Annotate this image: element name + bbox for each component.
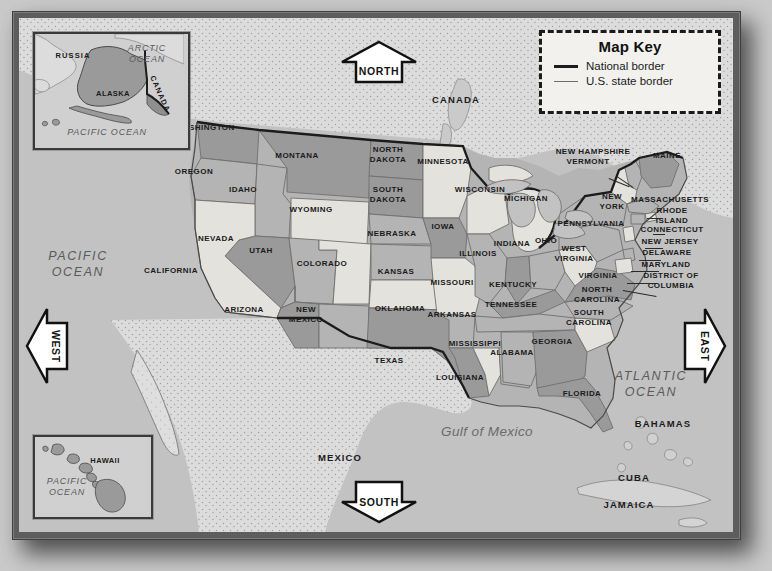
map-key: Map Key National border U.S. state borde… [539,30,721,114]
compass-label-east: EAST [683,307,733,385]
map-canvas: WASHINGTONOREGONIDAHOMONTANAWYOMINGNEVAD… [19,18,733,532]
leader-line-new-jersey [639,260,661,261]
leader-line-rhode-island [653,234,665,235]
alaska-inset-graphic [35,34,184,144]
leader-line-massachusetts [647,218,663,219]
map-screenshot: WASHINGTONOREGONIDAHOMONTANAWYOMINGNEVAD… [0,0,772,571]
hawaii-inset-graphic [35,437,147,513]
inset-hawaii: HAWAII PACIFIC OCEAN [33,435,153,519]
compass-label-north: NORTH [340,40,418,93]
compass-arrow-south: SOUTH [340,480,418,524]
compass-arrow-north: NORTH [340,40,418,84]
compass-label-south: SOUTH [340,480,418,532]
compass-label-west: WEST [25,307,78,385]
state-border-label: U.S. state border [586,75,673,87]
national-border-swatch [554,65,578,68]
leader-line-maryland [627,283,657,284]
compass-arrow-west: WEST [25,307,69,385]
map-key-item-state-border: U.S. state border [554,75,718,87]
map-key-item-national-border: National border [554,60,718,72]
leader-line-connecticut [645,248,663,249]
state-border-swatch [554,81,578,82]
compass-arrow-east: EAST [683,307,727,385]
inset-alaska: RUSSIA ALASKA CANADA ARCTIC OCEAN PACIFI… [33,32,190,150]
national-border-label: National border [586,60,665,72]
leader-line-delaware [631,271,659,272]
map-key-title: Map Key [542,38,718,55]
